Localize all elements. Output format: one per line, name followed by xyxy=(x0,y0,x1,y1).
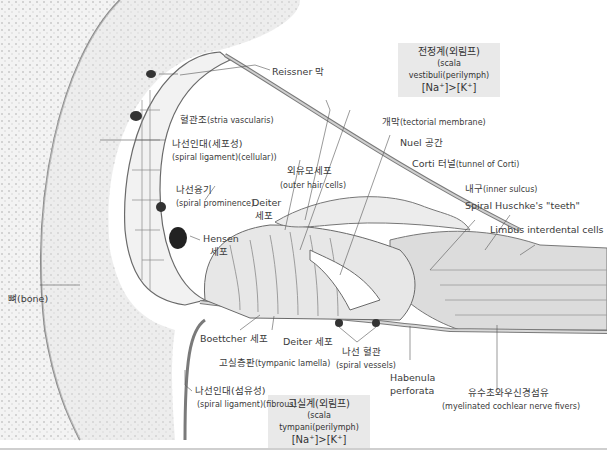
inner-sulcus-en: (inner sulcus) xyxy=(483,185,537,194)
corti-en: (tunnel of Corti) xyxy=(456,160,520,169)
label-nerve-fibers-en: (myelinated cochlear nerve fivers) xyxy=(442,401,580,412)
label-limbus: Limbus interdental cells xyxy=(490,224,604,235)
scala-tympani-en: (scala tympani(perilymph) xyxy=(274,410,364,434)
label-habenula-2: perforata xyxy=(390,385,434,396)
label-habenula: Habenula xyxy=(390,372,435,383)
label-deiter-top: Deiter xyxy=(252,197,281,208)
tectorial-ko: 개막 xyxy=(382,116,400,127)
stria-ko: 혈관조 xyxy=(180,114,207,125)
tympanic-ko: 고실층판 xyxy=(219,357,255,368)
label-stria: 혈관조(stria vascularis) xyxy=(180,114,274,126)
scala-vestibuli-box: 전정계(외림프) (scala vestibuli(perilymph) [Na… xyxy=(398,43,500,97)
label-spiral-ligament-fibrous-en: (spiral ligament)(fibrous) xyxy=(197,399,297,410)
tectorial-en: (tectorial membrane) xyxy=(400,118,486,127)
label-spiral-vessels-en: (spiral vessels) xyxy=(336,360,396,371)
label-tympanic-lamella: 고실층판(tympanic lamella) xyxy=(219,357,330,369)
scala-vestibuli-ko: 전정계(외림프) xyxy=(418,46,480,57)
cochlea-diagram: 전정계(외림프) (scala vestibuli(perilymph) [Na… xyxy=(0,0,607,456)
label-spiral-vessels: 나선 혈관 xyxy=(342,346,381,357)
label-nuel: Nuel 공간 xyxy=(400,137,443,148)
label-nerve-fibers: 유수초와우신경섬유 xyxy=(468,387,549,398)
label-spiral-ligament-cellular-en: (spiral ligament)(cellular)) xyxy=(172,152,277,163)
label-corti-tunnel: Corti 터널(tunnel of Corti) xyxy=(412,158,519,170)
label-inner-sulcus: 내구(inner sulcus) xyxy=(465,183,537,195)
divider xyxy=(0,448,607,450)
label-spiral-ligament-cellular: 나선인대(세포성) xyxy=(172,138,242,149)
corti-ko: Corti 터널 xyxy=(412,158,456,169)
label-spiral-ligament-fibrous: 나선인대(섬유성) xyxy=(195,385,265,396)
stria-en: (stria vascularis) xyxy=(207,116,274,125)
label-hensen: Hensen xyxy=(203,233,239,244)
label-hensen-2: 세포 xyxy=(210,246,228,257)
label-ohc: 외유모세포 xyxy=(287,165,332,176)
scala-tympani-ion: [Na⁺]>[K⁺] xyxy=(292,434,347,445)
label-deiter-top-2: 세포 xyxy=(255,210,273,221)
inner-sulcus-ko: 내구 xyxy=(465,183,483,194)
scala-tympani-ko: 고실계(외림프) xyxy=(288,398,350,409)
scala-vestibuli-en: (scala vestibuli(perilymph) xyxy=(404,58,494,82)
label-huschke: Spiral Huschke's "teeth" xyxy=(465,200,580,211)
label-ohc-en: (outer hair cells) xyxy=(280,180,346,191)
label-deiter-bottom: Deiter 세포 xyxy=(283,336,333,347)
label-reissner: Reissner 막 xyxy=(272,66,324,77)
label-bone: 뼈(bone) xyxy=(8,293,48,304)
label-prominence: 나선융기 xyxy=(176,184,212,195)
label-prominence-en: (spiral prominence) xyxy=(176,198,254,209)
scala-vestibuli-ion: [Na⁺]>[K⁺] xyxy=(422,82,477,93)
tympanic-en: (tympanic lamella) xyxy=(255,359,330,368)
label-tectorial: 개막(tectorial membrane) xyxy=(382,116,486,128)
label-boettcher: Boettcher 세포 xyxy=(200,333,268,344)
